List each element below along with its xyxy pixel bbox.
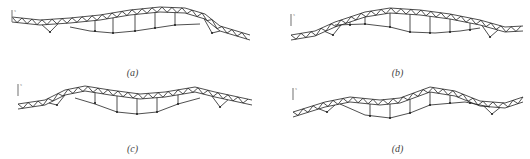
node — [136, 113, 138, 115]
caption-a: (a) — [0, 67, 265, 78]
node — [116, 111, 118, 113]
node — [154, 27, 156, 29]
node — [177, 103, 179, 105]
node — [409, 112, 411, 114]
node — [389, 117, 391, 119]
node — [219, 106, 221, 108]
truss-diagram: x — [0, 80, 265, 140]
node — [364, 23, 366, 25]
truss-diagram: x — [0, 0, 265, 60]
axis-label: x — [295, 86, 297, 91]
truss-lower-chord — [12, 12, 250, 40]
panel-c: x(c) — [0, 80, 265, 159]
node — [211, 32, 213, 34]
caption-c: (c) — [0, 143, 265, 154]
node — [156, 111, 158, 113]
support-v — [482, 26, 498, 37]
node — [449, 31, 451, 33]
node — [449, 102, 451, 104]
node — [491, 113, 493, 115]
node — [429, 104, 431, 106]
panel-a: x(a) — [0, 0, 265, 80]
truss-web — [291, 8, 521, 39]
support-v — [204, 19, 220, 33]
node — [326, 111, 328, 113]
node — [94, 30, 96, 32]
truss-web — [18, 86, 248, 108]
node — [369, 115, 371, 117]
node — [469, 29, 471, 31]
node — [56, 104, 58, 106]
node — [49, 31, 51, 33]
truss-diagram: x — [265, 80, 530, 140]
node — [134, 30, 136, 32]
node — [174, 24, 176, 26]
axis-label: x — [293, 12, 295, 17]
node — [332, 34, 334, 36]
node — [349, 24, 351, 26]
axis-label: x — [14, 8, 16, 13]
node — [469, 102, 471, 104]
suspension-cable — [335, 24, 480, 33]
caption-b: (b) — [265, 67, 530, 78]
panel-d: x(d) — [265, 80, 530, 159]
caption-d: (d) — [265, 143, 530, 154]
truss-web — [12, 7, 247, 39]
node — [489, 36, 491, 38]
axis-label: x — [20, 82, 22, 87]
suspension-cable — [75, 98, 200, 114]
node — [389, 26, 391, 28]
node — [409, 31, 411, 33]
node — [94, 102, 96, 104]
suspension-cable — [340, 102, 490, 118]
truss-diagram: x — [265, 0, 530, 60]
panel-b: x(b) — [265, 0, 530, 80]
node — [429, 32, 431, 34]
node — [112, 32, 114, 34]
